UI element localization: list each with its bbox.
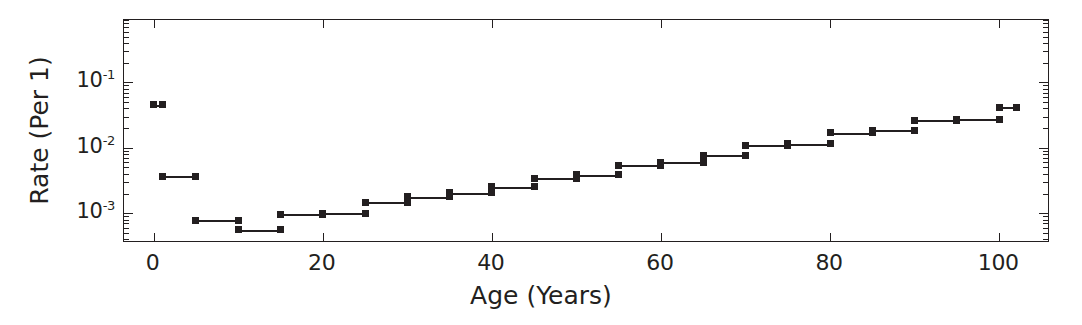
data-point-marker [827, 129, 834, 136]
data-point-marker [615, 171, 622, 178]
data-point-marker [277, 226, 284, 233]
data-point-marker [531, 175, 538, 182]
y-axis-minor-tick [1043, 23, 1048, 24]
y-axis-minor-tick [1043, 167, 1048, 168]
x-axis-tick [492, 233, 493, 241]
x-tick-label: 100 [958, 252, 1038, 274]
y-axis-minor-tick [1043, 117, 1048, 118]
x-axis-tick [492, 20, 493, 28]
x-axis-title: Age (Years) [0, 283, 1082, 308]
data-point-marker [1013, 104, 1020, 111]
y-axis-minor-tick [124, 89, 129, 90]
y-axis-minor-tick [1043, 89, 1048, 90]
y-axis-major-tick [124, 213, 133, 214]
data-point-marker [446, 189, 453, 196]
data-point-marker [869, 127, 876, 134]
y-axis-minor-tick [124, 233, 129, 234]
y-axis-minor-tick [124, 228, 129, 229]
x-axis-tick [830, 233, 831, 241]
data-segment [830, 133, 872, 135]
y-axis-minor-tick [124, 51, 129, 52]
y-axis-minor-tick [1043, 194, 1048, 195]
y-axis-minor-tick [124, 32, 129, 33]
data-point-marker [150, 101, 157, 108]
y-axis-minor-tick [124, 102, 129, 103]
data-segment [196, 220, 238, 222]
x-axis-tick [661, 233, 662, 241]
y-axis-minor-tick [124, 216, 129, 217]
data-segment [280, 214, 322, 216]
y-axis-minor-tick [1043, 239, 1048, 240]
data-point-marker [827, 140, 834, 147]
y-axis-major-tick [1039, 148, 1048, 149]
x-tick-label: 0 [113, 252, 193, 274]
data-segment [407, 197, 449, 199]
data-point-marker [235, 226, 242, 233]
data-point-marker [319, 210, 326, 217]
data-point-marker [277, 211, 284, 218]
data-point-marker [911, 127, 918, 134]
y-axis-minor-tick [1043, 93, 1048, 94]
y-axis-minor-tick [1043, 20, 1048, 21]
data-segment [450, 193, 492, 195]
data-segment [788, 144, 830, 146]
y-axis-minor-tick [1043, 63, 1048, 64]
y-axis-minor-tick [1043, 37, 1048, 38]
data-segment [323, 213, 365, 215]
data-point-marker [159, 173, 166, 180]
data-segment [957, 119, 999, 121]
data-point-marker [488, 183, 495, 190]
y-axis-major-tick [124, 148, 133, 149]
data-point-marker [615, 162, 622, 169]
x-axis-tick [154, 20, 155, 28]
x-axis-tick [154, 233, 155, 241]
y-axis-major-tick [124, 82, 133, 83]
data-point-marker [192, 173, 199, 180]
y-axis-minor-tick [124, 167, 129, 168]
y-axis-minor-tick [124, 85, 129, 86]
data-point-marker [700, 152, 707, 159]
x-tick-label: 20 [282, 252, 362, 274]
data-segment [703, 155, 745, 157]
data-segment [915, 120, 957, 122]
data-point-marker [159, 101, 166, 108]
data-segment [746, 145, 788, 147]
data-series-layer [124, 20, 1048, 241]
y-axis-minor-tick [1043, 85, 1048, 86]
data-segment [162, 176, 196, 178]
data-point-marker [742, 152, 749, 159]
y-axis-minor-tick [124, 20, 129, 21]
data-point-marker [531, 183, 538, 190]
chart-figure: Rate (Per 1) 10-110-210-3 020406080100 A… [0, 0, 1082, 325]
y-axis-minor-tick [1043, 108, 1048, 109]
y-axis-minor-tick [124, 220, 129, 221]
y-axis-minor-tick [124, 63, 129, 64]
y-axis-minor-tick [1043, 128, 1048, 129]
data-segment [661, 162, 703, 164]
data-point-marker [404, 193, 411, 200]
y-axis-minor-tick [1043, 220, 1048, 221]
data-point-marker [488, 189, 495, 196]
data-point-marker [784, 140, 791, 147]
data-segment [492, 187, 534, 189]
plot-area [123, 19, 1049, 242]
x-tick-label: 80 [789, 252, 869, 274]
data-segment [238, 230, 280, 232]
y-axis-minor-tick [124, 43, 129, 44]
y-axis-minor-tick [124, 174, 129, 175]
y-axis-minor-tick [124, 23, 129, 24]
y-axis-minor-tick [1043, 174, 1048, 175]
data-point-marker [996, 104, 1003, 111]
y-tick-label: 10-1 [49, 70, 115, 91]
y-axis-title: Rate (Per 1) [27, 6, 52, 256]
data-segment [534, 178, 576, 180]
data-point-marker [362, 210, 369, 217]
data-point-marker [911, 117, 918, 124]
data-point-marker [362, 199, 369, 206]
x-axis-tick [999, 20, 1000, 28]
y-axis-minor-tick [1043, 27, 1048, 28]
y-axis-minor-tick [124, 239, 129, 240]
y-tick-label: 10-2 [49, 136, 115, 157]
x-tick-label: 60 [620, 252, 700, 274]
y-axis-minor-tick [124, 117, 129, 118]
